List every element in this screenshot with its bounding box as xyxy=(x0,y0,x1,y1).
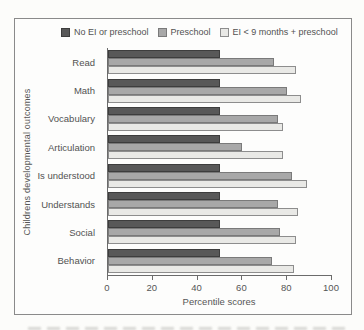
category-labels: ReadMathVocabularyArticulationIs underst… xyxy=(15,48,101,275)
x-tick-20 xyxy=(152,276,153,280)
legend-label: Preschool xyxy=(171,27,211,37)
bar-group-math xyxy=(108,76,332,104)
bar-group-social xyxy=(108,218,332,246)
x-tick-label-20: 20 xyxy=(138,282,166,293)
x-tick-label-100: 100 xyxy=(317,282,345,293)
legend: No EI or preschool Preschool EI < 9 mont… xyxy=(61,27,338,37)
x-tick-label-60: 60 xyxy=(227,282,255,293)
bar-group-behavior xyxy=(108,247,332,275)
bar-understands-no-ei-or-preschool xyxy=(108,192,220,200)
x-tick-80 xyxy=(286,276,287,280)
bar-group-understands xyxy=(108,190,332,218)
category-label-understands: Understands xyxy=(15,190,101,218)
x-axis-ticks xyxy=(107,275,331,280)
bar-behavior-preschool xyxy=(108,257,272,265)
bar-group-is-understood xyxy=(108,162,332,190)
bar-math-ei-9-months-preschool xyxy=(108,95,301,103)
legend-swatch-dark-icon xyxy=(61,28,70,37)
x-axis-title: Percentile scores xyxy=(107,296,331,307)
bar-social-ei-9-months-preschool xyxy=(108,236,296,244)
bar-articulation-preschool xyxy=(108,143,242,151)
bar-read-no-ei-or-preschool xyxy=(108,50,220,58)
bar-read-preschool xyxy=(108,58,274,66)
bar-social-preschool xyxy=(108,228,280,236)
legend-label: EI < 9 months + preschool xyxy=(233,27,338,37)
bar-read-ei-9-months-preschool xyxy=(108,66,296,74)
bar-vocabulary-no-ei-or-preschool xyxy=(108,107,220,115)
category-label-articulation: Articulation xyxy=(15,133,101,161)
category-label-behavior: Behavior xyxy=(15,247,101,275)
x-tick-label-0: 0 xyxy=(93,282,121,293)
bar-group-read xyxy=(108,48,332,76)
bar-math-preschool xyxy=(108,87,287,95)
legend-item-ei-9-months-preschool: EI < 9 months + preschool xyxy=(220,27,338,37)
bar-vocabulary-ei-9-months-preschool xyxy=(108,123,283,131)
bar-understands-preschool xyxy=(108,200,278,208)
bar-behavior-ei-9-months-preschool xyxy=(108,265,294,273)
x-tick-40 xyxy=(197,276,198,280)
x-tick-60 xyxy=(241,276,242,280)
bar-group-articulation xyxy=(108,133,332,161)
bar-is-understood-no-ei-or-preschool xyxy=(108,164,220,172)
bar-group-vocabulary xyxy=(108,105,332,133)
category-label-read: Read xyxy=(15,48,101,76)
x-tick-100 xyxy=(331,276,332,280)
legend-swatch-gray-icon xyxy=(158,28,167,37)
bar-behavior-no-ei-or-preschool xyxy=(108,249,220,257)
legend-item-no-ei-or-preschool: No EI or preschool xyxy=(61,27,149,37)
legend-label: No EI or preschool xyxy=(74,27,149,37)
bar-understands-ei-9-months-preschool xyxy=(108,208,298,216)
bar-articulation-ei-9-months-preschool xyxy=(108,151,283,159)
x-tick-label-40: 40 xyxy=(183,282,211,293)
category-label-social: Social xyxy=(15,218,101,246)
figure-canvas: { "figure": { "background": "#fcfcfa", "… xyxy=(0,0,364,330)
legend-swatch-light-icon xyxy=(220,28,229,37)
bar-articulation-no-ei-or-preschool xyxy=(108,135,220,143)
x-tick-0 xyxy=(107,276,108,280)
bar-social-no-ei-or-preschool xyxy=(108,220,220,228)
bar-math-no-ei-or-preschool xyxy=(108,79,220,87)
plot-area xyxy=(107,48,332,276)
chart-panel: No EI or preschool Preschool EI < 9 mont… xyxy=(14,18,352,315)
category-label-is-understood: Is understood xyxy=(15,162,101,190)
x-tick-label-80: 80 xyxy=(272,282,300,293)
bar-is-understood-preschool xyxy=(108,172,292,180)
category-label-math: Math xyxy=(15,76,101,104)
category-label-vocabulary: Vocabulary xyxy=(15,105,101,133)
bar-is-understood-ei-9-months-preschool xyxy=(108,180,307,188)
bar-vocabulary-preschool xyxy=(108,115,278,123)
legend-item-preschool: Preschool xyxy=(158,27,211,37)
x-axis-tick-labels: 020406080100 xyxy=(107,282,331,293)
